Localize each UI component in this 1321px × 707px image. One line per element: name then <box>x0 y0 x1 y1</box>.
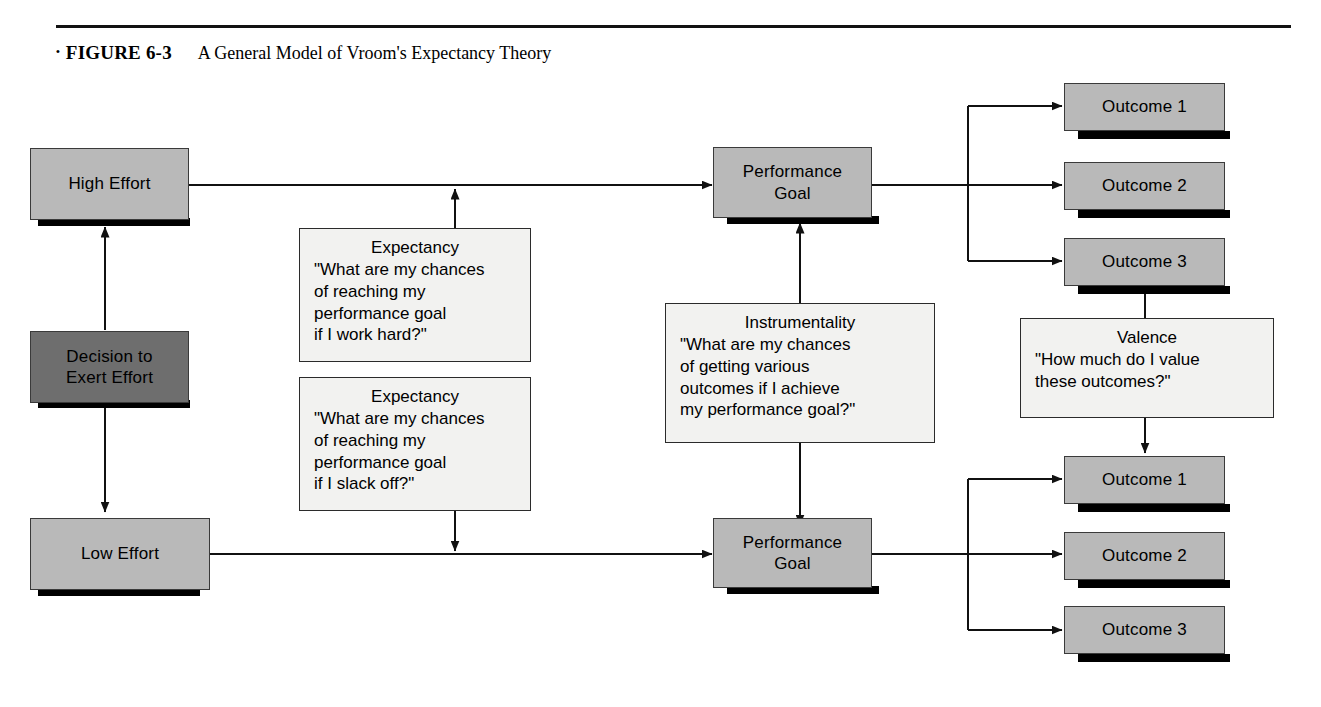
node-low-effort-label: Low Effort <box>81 543 159 564</box>
note-valence[interactable]: Valence "How much do I value these outco… <box>1020 318 1274 418</box>
note-instrumentality-title: Instrumentality <box>680 312 920 334</box>
note-expectancy-high[interactable]: Expectancy "What are my chances of reach… <box>299 228 531 362</box>
note-instrumentality-body: "What are my chances of getting various … <box>680 334 920 421</box>
node-high-effort[interactable]: High Effort <box>30 148 189 220</box>
node-performance-goal-top[interactable]: Performance Goal <box>713 147 872 218</box>
node-performance-goal-top-label: Performance Goal <box>743 161 843 204</box>
node-outcome-bottom-3-label: Outcome 3 <box>1102 619 1187 640</box>
note-expectancy-high-body: "What are my chances of reaching my perf… <box>314 259 516 346</box>
node-high-effort-label: High Effort <box>68 173 150 194</box>
shadow-outcome-top-2 <box>1078 210 1230 218</box>
node-outcome-top-3-label: Outcome 3 <box>1102 251 1187 272</box>
node-performance-goal-bottom-label: Performance Goal <box>743 532 843 575</box>
shadow-outcome-bottom-2 <box>1078 580 1230 588</box>
shadow-outcome-bottom-1 <box>1078 504 1230 512</box>
node-decision-to-exert-effort[interactable]: Decision to Exert Effort <box>30 331 189 403</box>
note-instrumentality[interactable]: Instrumentality "What are my chances of … <box>665 303 935 443</box>
note-valence-title: Valence <box>1035 327 1259 349</box>
shadow-outcome-top-3 <box>1078 286 1230 294</box>
note-expectancy-high-inner: Expectancy "What are my chances of reach… <box>300 229 530 352</box>
node-low-effort[interactable]: Low Effort <box>30 518 210 590</box>
note-expectancy-low-title: Expectancy <box>314 386 516 408</box>
note-valence-inner: Valence "How much do I value these outco… <box>1021 319 1273 399</box>
note-expectancy-low-inner: Expectancy "What are my chances of reach… <box>300 378 530 501</box>
node-outcome-bottom-1-label: Outcome 1 <box>1102 469 1187 490</box>
node-outcome-top-1-label: Outcome 1 <box>1102 96 1187 117</box>
note-instrumentality-inner: Instrumentality "What are my chances of … <box>666 304 934 427</box>
node-outcome-top-2[interactable]: Outcome 2 <box>1064 162 1225 210</box>
note-expectancy-low-body: "What are my chances of reaching my perf… <box>314 408 516 495</box>
note-expectancy-high-title: Expectancy <box>314 237 516 259</box>
node-outcome-top-1[interactable]: Outcome 1 <box>1064 83 1225 131</box>
node-decision-label: Decision to Exert Effort <box>66 346 153 389</box>
note-valence-body: "How much do I value these outcomes?" <box>1035 349 1259 393</box>
shadow-outcome-top-1 <box>1078 131 1230 139</box>
node-outcome-top-3[interactable]: Outcome 3 <box>1064 238 1225 286</box>
note-expectancy-low[interactable]: Expectancy "What are my chances of reach… <box>299 377 531 511</box>
node-outcome-bottom-1[interactable]: Outcome 1 <box>1064 456 1225 504</box>
node-performance-goal-bottom[interactable]: Performance Goal <box>713 518 872 588</box>
node-outcome-top-2-label: Outcome 2 <box>1102 175 1187 196</box>
diagram-canvas: High Effort Decision to Exert Effort Low… <box>0 0 1321 707</box>
node-outcome-bottom-2-label: Outcome 2 <box>1102 545 1187 566</box>
shadow-outcome-bottom-3 <box>1078 654 1230 662</box>
node-outcome-bottom-3[interactable]: Outcome 3 <box>1064 606 1225 654</box>
node-outcome-bottom-2[interactable]: Outcome 2 <box>1064 532 1225 580</box>
